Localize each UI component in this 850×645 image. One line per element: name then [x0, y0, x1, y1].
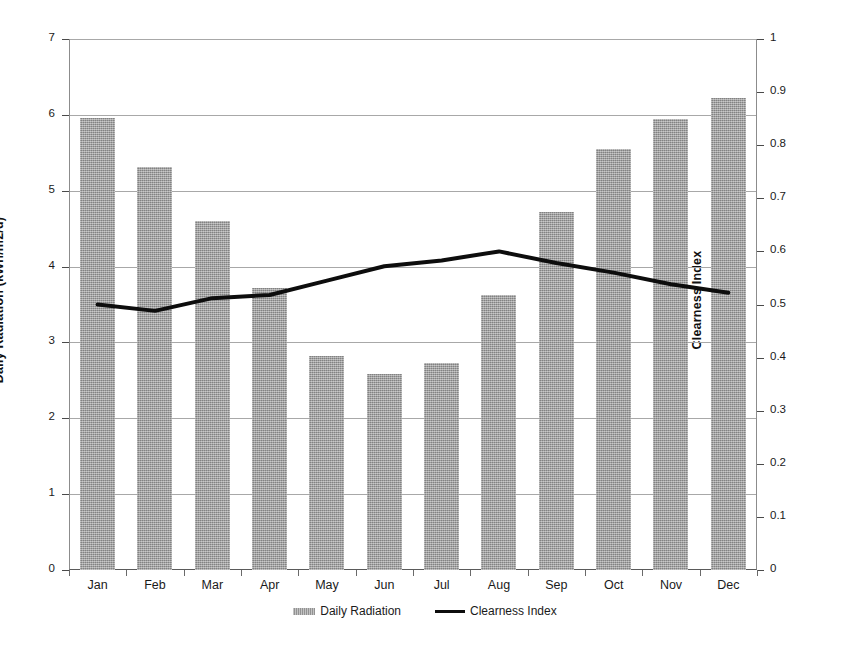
x-axis-tick-label: Jun: [356, 578, 413, 592]
y-axis-tick-mark-right: [757, 92, 764, 93]
x-axis-tick-mark: [126, 570, 127, 576]
x-axis-tick-mark: [69, 570, 70, 576]
x-axis-tick-label: Feb: [126, 578, 183, 592]
y-axis-tick-label-left: 4: [23, 259, 55, 271]
legend-label-clearness-index: Clearness Index: [470, 604, 557, 618]
x-axis-tick-mark: [413, 570, 414, 576]
y-axis-tick-mark-right: [757, 39, 764, 40]
line-swatch-icon: [435, 610, 465, 613]
x-axis-tick-label: Jan: [69, 578, 126, 592]
x-axis-tick-label: Dec: [700, 578, 757, 592]
y-axis-tick-label-left: 6: [23, 107, 55, 119]
chart-legend: Daily Radiation Clearness Index: [0, 604, 850, 618]
x-axis-tick-label: Mar: [184, 578, 241, 592]
y-axis-tick-mark-right: [757, 145, 764, 146]
x-axis-tick-label: Apr: [241, 578, 298, 592]
y-axis-tick-label-right: 0.7: [770, 190, 786, 202]
legend-item-clearness-index: Clearness Index: [435, 604, 557, 618]
y-axis-tick-mark-left: [62, 418, 69, 419]
y-axis-tick-label-left: 7: [23, 31, 55, 43]
x-axis-tick-mark: [700, 570, 701, 576]
y-axis-tick-label-right: 0.1: [770, 509, 786, 521]
y-axis-tick-label-left: 2: [23, 410, 55, 422]
y-axis-tick-label-right: 0.2: [770, 456, 786, 468]
y-axis-tick-mark-right: [757, 358, 764, 359]
y-axis-tick-label-left: 1: [23, 486, 55, 498]
y-axis-tick-mark-right: [757, 198, 764, 199]
x-axis-tick-label: Sep: [528, 578, 585, 592]
plot-area: [69, 39, 757, 570]
y-axis-tick-mark-right: [757, 305, 764, 306]
x-axis-tick-label: May: [298, 578, 355, 592]
y-axis-tick-label-right: 0: [770, 562, 776, 574]
y-axis-tick-mark-right: [757, 251, 764, 252]
y-axis-tick-mark-right: [757, 570, 764, 571]
x-axis-tick-mark: [528, 570, 529, 576]
y-axis-tick-mark-right: [757, 517, 764, 518]
y-axis-tick-mark-left: [62, 267, 69, 268]
chart-figure: Daily Radiation (kWh/m2/d) Clearness Ind…: [0, 0, 850, 645]
x-axis-tick-label: Oct: [585, 578, 642, 592]
y-axis-tick-label-left: 3: [23, 334, 55, 346]
bar-swatch-icon: [293, 608, 315, 615]
x-axis-tick-mark: [757, 570, 758, 576]
x-axis-tick-mark: [470, 570, 471, 576]
x-axis-tick-mark: [642, 570, 643, 576]
legend-label-daily-radiation: Daily Radiation: [320, 604, 401, 618]
x-axis-tick-label: Aug: [470, 578, 527, 592]
y-axis-tick-mark-right: [757, 464, 764, 465]
y-axis-tick-mark-right: [757, 411, 764, 412]
x-axis-tick-label: Nov: [642, 578, 699, 592]
y-axis-tick-label-right: 0.3: [770, 403, 786, 415]
line-series-clearness-index: [69, 39, 757, 570]
y-axis-tick-label-right: 0.6: [770, 243, 786, 255]
x-axis-tick-label: Jul: [413, 578, 470, 592]
y-axis-tick-label-left: 0: [23, 562, 55, 574]
y-axis-tick-mark-left: [62, 342, 69, 343]
y-axis-tick-mark-left: [62, 191, 69, 192]
legend-item-daily-radiation: Daily Radiation: [293, 604, 401, 618]
x-axis-tick-mark: [241, 570, 242, 576]
y-axis-tick-label-left: 5: [23, 183, 55, 195]
y-axis-tick-label-right: 0.4: [770, 350, 786, 362]
y-axis-tick-label-right: 0.9: [770, 84, 786, 96]
y-axis-tick-mark-left: [62, 39, 69, 40]
y-axis-tick-mark-left: [62, 570, 69, 571]
y-axis-tick-label-right: 1: [770, 31, 776, 43]
x-axis-tick-mark: [298, 570, 299, 576]
y-axis-tick-label-right: 0.8: [770, 137, 786, 149]
y-axis-tick-label-right: 0.5: [770, 297, 786, 309]
x-axis-tick-mark: [356, 570, 357, 576]
y-axis-tick-mark-left: [62, 494, 69, 495]
x-axis-tick-mark: [585, 570, 586, 576]
y-axis-title-left: Daily Radiation (kWh/m2/d): [0, 150, 6, 450]
x-axis-tick-mark: [184, 570, 185, 576]
y-axis-tick-mark-left: [62, 115, 69, 116]
